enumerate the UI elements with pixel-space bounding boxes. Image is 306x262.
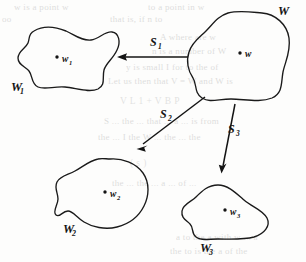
point-w1-label: w bbox=[62, 54, 69, 64]
ghost-line: A where are w bbox=[160, 32, 216, 42]
point-w-label: w bbox=[245, 49, 252, 59]
ghost-line: w is a point w bbox=[14, 2, 69, 12]
figure-container: w is a point w to a point in w oo that i… bbox=[0, 0, 306, 262]
map-s2-arrow-head bbox=[137, 146, 148, 152]
set-w2-label-subscript: 2 bbox=[71, 229, 76, 238]
set-mapping-diagram: w is a point w to a point in w oo that i… bbox=[0, 0, 306, 262]
point-w-dot bbox=[238, 51, 241, 54]
point-w1-dot bbox=[55, 55, 58, 58]
ghost-line: V L 1 + V B P bbox=[120, 96, 180, 106]
ghost-line: that is, if n to bbox=[110, 14, 163, 24]
set-w1-group: w 1 W 1 bbox=[11, 27, 119, 96]
point-w2-dot bbox=[103, 190, 106, 193]
point-w3-label-subscript: 3 bbox=[236, 212, 241, 219]
ghost-line: a to the a with w ... a bbox=[176, 232, 258, 242]
point-w2-label: w bbox=[110, 189, 117, 199]
ghost-line: to a point in w bbox=[148, 2, 205, 12]
map-s2-label-subscript: 2 bbox=[167, 114, 172, 123]
set-w2-group: w 2 W 2 bbox=[55, 159, 148, 238]
ghost-line: Let us then that V = W and W is bbox=[108, 76, 233, 86]
set-w2-outline bbox=[55, 159, 148, 229]
map-s3-label: S bbox=[228, 122, 235, 136]
set-w3-label-subscript: 3 bbox=[208, 248, 213, 257]
point-w3-label: w bbox=[230, 207, 237, 217]
map-s3-label-subscript: 3 bbox=[235, 129, 240, 138]
point-w3-dot bbox=[223, 208, 226, 211]
map-s1-arrow-head bbox=[117, 53, 127, 61]
set-w-label: W bbox=[278, 4, 290, 18]
map-s1-label: S bbox=[150, 35, 157, 49]
point-w2-label-subscript: 2 bbox=[116, 194, 121, 201]
point-w1-label-subscript: 1 bbox=[69, 59, 72, 66]
map-s2-label: S bbox=[160, 107, 167, 121]
set-w1-label-subscript: 1 bbox=[20, 87, 24, 96]
ghost-line: the ... I the W ... the ... the bbox=[98, 132, 201, 142]
ghost-line: the ... the ... a ... of ... bbox=[112, 178, 197, 188]
map-s3-group: S 3 bbox=[219, 104, 240, 174]
ghost-line: oo bbox=[2, 14, 12, 24]
ghost-line: y is small I for to the of bbox=[126, 62, 219, 72]
map-s1-label-subscript: 1 bbox=[158, 42, 162, 51]
ghost-bleed-text-layer: w is a point w to a point in w oo that i… bbox=[2, 2, 258, 256]
